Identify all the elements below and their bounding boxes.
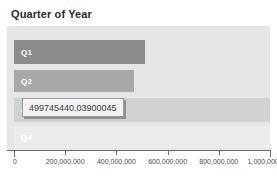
bar-q1[interactable]: Q1 (14, 40, 145, 64)
plot-area: Q1Q2Q3Q4 (7, 26, 270, 150)
x-tick-0 (14, 150, 15, 157)
bar-q2[interactable]: Q2 (14, 70, 134, 92)
x-tick-label-3: 600,000,000 (148, 158, 187, 165)
x-tick-5 (270, 150, 271, 157)
bar-rect-q1 (14, 40, 145, 64)
x-tick-label-5: 1,000,000,000 (248, 158, 277, 165)
bar-label-q4: Q4 (21, 133, 32, 142)
bar-label-q1: Q1 (21, 48, 32, 57)
tooltip-value: 499745440.03900045 (29, 103, 117, 113)
x-axis: 0200,000,000400,000,000600,000,000800,00… (7, 150, 270, 176)
bar-label-q2: Q2 (21, 77, 32, 86)
x-tick-label-0: 0 (13, 158, 17, 165)
x-axis-line (7, 150, 270, 151)
x-tick-4 (219, 150, 220, 155)
bar-q4[interactable]: Q4 (14, 126, 270, 148)
x-tick-label-2: 400,000,000 (97, 158, 136, 165)
chart-title: Quarter of Year (11, 8, 92, 20)
bars-layer: Q1Q2Q3Q4 (7, 26, 270, 150)
x-tick-label-4: 800,000,000 (199, 158, 238, 165)
x-tick-3 (168, 150, 169, 155)
x-tick-1 (65, 150, 66, 155)
bar-chart-visualization: Quarter of Year Q1Q2Q3Q4 499745440.03900… (0, 0, 277, 176)
bar-rect-q4 (14, 126, 270, 148)
x-tick-2 (116, 150, 117, 155)
value-tooltip: 499745440.03900045 (22, 98, 124, 117)
x-tick-label-1: 200,000,000 (46, 158, 85, 165)
